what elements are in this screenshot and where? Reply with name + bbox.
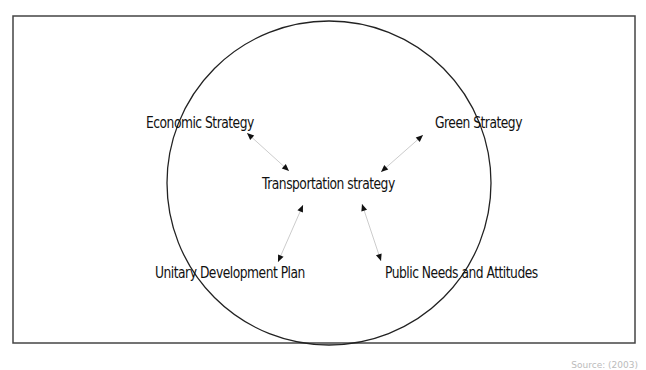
- arrow-public: [362, 204, 381, 261]
- center-node-transportation-strategy: Transportation strategy: [262, 175, 395, 193]
- source-note: Source: (2003): [571, 360, 638, 370]
- arrow-unitary: [278, 205, 303, 262]
- arrowhead-icon: [361, 204, 367, 212]
- arrow-green: [381, 135, 423, 172]
- node-unitary-development-plan: Unitary Development Plan: [155, 264, 305, 282]
- node-public-needs-and-attitudes: Public Needs and Attitudes: [385, 264, 538, 282]
- arrow-economic: [247, 133, 289, 171]
- arrowhead-icon: [376, 253, 382, 261]
- diagram-canvas: Transportation strategy Economic Strateg…: [0, 0, 646, 370]
- node-green-strategy: Green Strategy: [435, 114, 522, 132]
- node-economic-strategy: Economic Strategy: [146, 114, 254, 132]
- arrows-group: [247, 133, 423, 262]
